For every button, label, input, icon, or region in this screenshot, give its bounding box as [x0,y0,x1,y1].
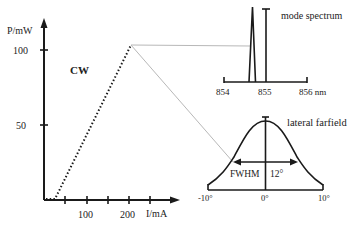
spectrum-peak-main [249,7,256,82]
y-tick-label-50: 50 [16,120,26,131]
farfield-tick-label-neg10: -10° [198,193,213,203]
farfield-tick-label-0: 0° [261,193,269,203]
fwhm-arrow-right-icon [290,159,298,166]
mode-spectrum: 854 855 856 nm mode spectrum [216,7,343,97]
x-axis-label: I/mA [146,208,168,219]
cw-label: CW [70,64,89,76]
fwhm-label: FWHM [230,169,260,179]
guide-line-to-spectrum [131,45,250,46]
farfield-title: lateral farfield [287,117,347,128]
fwhm-value: 12° [270,169,284,179]
lateral-farfield: FWHM 12° -10° 0° 10° lateral farfield [198,117,347,203]
x-axis-arrow-icon [170,197,180,204]
li-plot: P/mW 100 50 100 200 I/mA CW [7,18,180,220]
x-tick-label-200: 200 [120,209,135,220]
spectrum-tick-label-854: 854 [216,87,230,97]
y-axis-arrow-icon [41,18,48,28]
fwhm-arrow-left-icon [233,159,241,166]
spectrum-title: mode spectrum [281,10,343,21]
laser-characteristics-figure: P/mW 100 50 100 200 I/mA CW 854 855 856 … [0,0,362,228]
farfield-tick-label-10: 10° [318,193,330,203]
spectrum-tick-label-855: 855 [258,87,272,97]
x-tick-label-100: 100 [78,209,93,220]
guide-line-to-farfield [131,45,233,162]
y-axis-label: P/mW [7,25,33,36]
y-tick-label-100: 100 [13,45,28,56]
spectrum-tick-label-856: 856 nm [299,87,326,97]
